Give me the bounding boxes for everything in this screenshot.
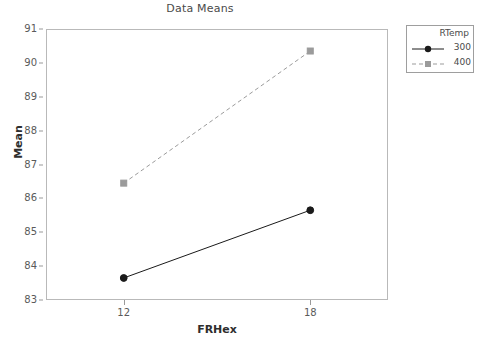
series-line (124, 210, 311, 278)
y-tick-mark (39, 29, 43, 30)
x-axis-title: FRHex (46, 323, 388, 336)
series-line (124, 51, 311, 183)
y-axis: 838485868788899091 (0, 0, 46, 341)
legend-swatch-icon (411, 56, 445, 70)
y-tick-label: 89 (7, 92, 37, 102)
legend-item-300[interactable]: 300 (407, 41, 475, 55)
chart-container: Data Means 838485868788899091 Mean FRHex… (0, 0, 479, 341)
y-tick-label: 84 (7, 261, 37, 271)
y-tick-label: 91 (7, 24, 37, 34)
x-tick-label: 12 (104, 308, 144, 318)
y-tick-mark (39, 164, 43, 165)
x-tick-mark (310, 300, 311, 305)
y-tick-label: 86 (7, 193, 37, 203)
y-tick-label: 83 (7, 295, 37, 305)
chart-title: Data Means (0, 2, 400, 15)
legend-title: RTemp (439, 28, 469, 38)
y-tick-label: 87 (7, 160, 37, 170)
x-tick-mark (124, 300, 125, 305)
y-tick-label: 85 (7, 227, 37, 237)
legend-item-label: 300 (454, 42, 471, 52)
data-point-marker (120, 275, 127, 282)
series-300 (120, 207, 313, 282)
legend-swatch-icon (411, 41, 445, 55)
data-point-marker (307, 48, 313, 54)
legend-item-400[interactable]: 400 (407, 56, 475, 70)
legend: RTemp 300400 (406, 25, 474, 73)
data-point-marker (307, 207, 314, 214)
y-tick-mark (39, 198, 43, 199)
y-tick-mark (39, 232, 43, 233)
x-tick-label: 18 (290, 308, 330, 318)
series-400 (121, 48, 314, 186)
y-tick-mark (39, 62, 43, 63)
y-tick-mark (39, 96, 43, 97)
legend-item-label: 400 (454, 57, 471, 67)
y-tick-mark (39, 266, 43, 267)
y-tick-label: 90 (7, 58, 37, 68)
plot-series-layer (46, 29, 388, 300)
y-tick-mark (39, 300, 43, 301)
y-axis-title: Mean (12, 125, 25, 159)
y-tick-mark (39, 130, 43, 131)
data-point-marker (121, 180, 127, 186)
